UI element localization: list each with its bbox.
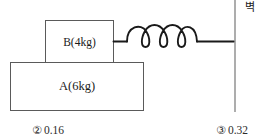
spring-icon	[114, 25, 235, 47]
physics-diagram-figure: B(4kg) A(6kg) 벽 ②0.16 ③0.32	[0, 0, 266, 137]
spring-and-wall-layer	[0, 0, 266, 137]
